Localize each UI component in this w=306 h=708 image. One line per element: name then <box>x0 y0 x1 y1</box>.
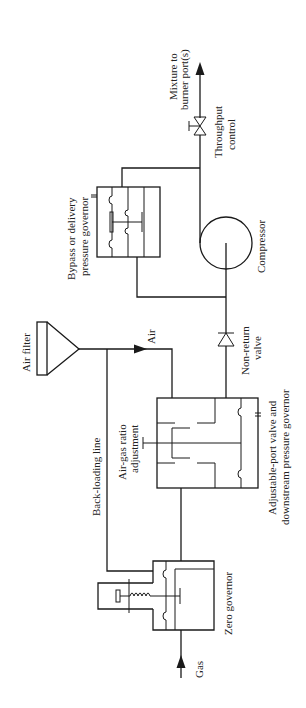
bypass-label-2: pressure governor <box>78 197 90 276</box>
throughput-control-valve <box>189 117 206 168</box>
backloading-label: Back-loading line <box>90 437 102 516</box>
zero-governor-label: Zero governor <box>222 571 234 635</box>
bypass-label: Bypass or delivery <box>65 197 77 280</box>
air-label: Air <box>145 329 157 344</box>
air-filter-label: Air filter <box>20 333 32 372</box>
bypass-pressure-governor <box>91 187 160 257</box>
gas-arrow-icon <box>177 655 186 668</box>
adjport-label-2: downstream pressure governor <box>279 389 291 525</box>
airgas-label-2: adjustment <box>128 425 140 473</box>
adjport-label: Adjustable-port valve and <box>266 400 278 515</box>
throughput-label: Throughput <box>212 106 224 158</box>
air-arrow-icon <box>134 345 147 354</box>
compressor-label: Compressor <box>255 220 267 274</box>
nonreturn-label: Non-return <box>239 326 251 375</box>
airgas-label: Air-gas ratio <box>116 424 128 480</box>
gas-label: Gas <box>193 661 205 678</box>
non-return-valve <box>218 297 234 398</box>
throughput-label-2: control <box>225 119 237 150</box>
mixture-label-2: burner port(s) <box>178 49 191 110</box>
air-filter <box>37 322 79 375</box>
nonreturn-label-2: valve <box>251 336 263 360</box>
outlet-arrow-icon <box>196 62 205 75</box>
adjustable-port-valve-governor <box>143 398 261 488</box>
gas-air-mixing-diagram: Mixture to burner port(s) Throughput con… <box>0 0 306 708</box>
mixture-outlet <box>196 62 205 118</box>
compressor <box>200 217 252 297</box>
gas-inlet <box>177 630 186 678</box>
